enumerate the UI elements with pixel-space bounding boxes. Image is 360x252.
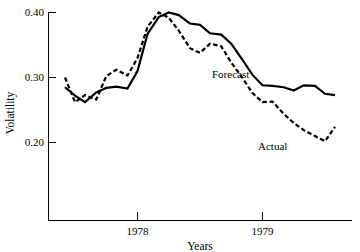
series-label-actual: Actual (258, 140, 287, 152)
x-tick-label-1978: 1978 (127, 225, 150, 237)
x-axis-title: Years (187, 240, 213, 252)
x-tick-label-1979: 1979 (252, 225, 275, 237)
series-line-actual (65, 13, 335, 142)
y-tick-label-040: 0.40 (25, 6, 45, 18)
y-axis-title: Volatility (4, 91, 17, 134)
y-tick-label-030: 0.30 (25, 71, 45, 83)
volatility-chart: 0.40 0.30 0.20 1978 1979 Volatility Year… (0, 0, 360, 252)
series-label-forecast: Forecast (212, 68, 249, 80)
y-tick-label-020: 0.20 (25, 136, 45, 148)
chart-canvas: 0.40 0.30 0.20 1978 1979 Volatility Year… (0, 0, 360, 252)
series-line-forecast (65, 13, 335, 103)
